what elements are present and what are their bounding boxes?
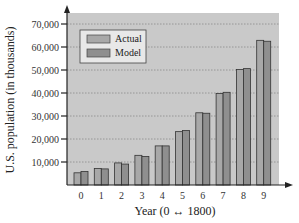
- bar-actual: [115, 163, 122, 185]
- x-tick-label: 8: [241, 190, 246, 201]
- bar-model: [223, 92, 230, 185]
- x-tick-label: 1: [99, 190, 104, 201]
- x-axis-arrow-icon: [285, 182, 293, 188]
- x-tick-label: 3: [139, 190, 144, 201]
- legend-swatch-actual: [87, 35, 110, 43]
- y-ticks: 10,00020,00030,00040,00050,00060,00070,0…: [32, 19, 68, 168]
- x-tick-label: 6: [200, 190, 205, 201]
- y-tick-label: 20,000: [32, 134, 60, 145]
- y-tick-label: 30,000: [32, 111, 60, 122]
- legend: Actual Model: [80, 30, 146, 63]
- x-tick-label: 0: [79, 190, 84, 201]
- y-tick-label: 60,000: [32, 42, 60, 53]
- legend-label-model: Model: [115, 47, 141, 58]
- y-tick-label: 10,000: [32, 157, 60, 168]
- x-tick-label: 9: [261, 190, 266, 201]
- y-tick-label: 70,000: [32, 19, 60, 30]
- bar-actual: [74, 173, 81, 185]
- bar-model: [243, 69, 250, 185]
- bar-model: [142, 156, 149, 185]
- bar-model: [162, 146, 169, 185]
- y-axis-arrow-icon: [64, 5, 70, 13]
- y-tick-label: 50,000: [32, 65, 60, 76]
- bar-model: [81, 171, 88, 185]
- x-axis-title: Year (0 ↔ 1800): [134, 204, 215, 218]
- bar-actual: [196, 113, 203, 185]
- bar-actual: [94, 168, 101, 185]
- legend-swatch-model: [87, 49, 110, 57]
- bar-model: [101, 169, 108, 185]
- bar-actual: [176, 132, 183, 185]
- bar-chart: 10,00020,00030,00040,00050,00060,00070,0…: [0, 0, 299, 223]
- bar-model: [203, 113, 210, 185]
- x-ticks: 0123456789: [79, 190, 267, 201]
- bar-model: [264, 41, 271, 185]
- bar-model: [122, 164, 129, 185]
- y-axis-title: U.S. population (in thousands): [3, 27, 17, 174]
- bar-actual: [155, 146, 162, 185]
- legend-label-actual: Actual: [115, 33, 142, 44]
- x-tick-label: 7: [221, 190, 226, 201]
- bar-model: [183, 130, 190, 185]
- x-tick-label: 2: [119, 190, 124, 201]
- bar-actual: [135, 155, 142, 185]
- x-tick-label: 5: [180, 190, 185, 201]
- bar-actual: [236, 70, 243, 185]
- bar-actual: [257, 40, 264, 185]
- x-tick-label: 4: [160, 190, 165, 201]
- bar-actual: [216, 93, 223, 185]
- y-tick-label: 40,000: [32, 88, 60, 99]
